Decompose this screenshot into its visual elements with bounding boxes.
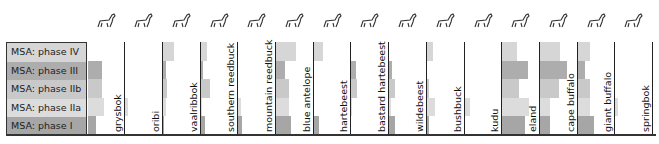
bar [502, 79, 519, 98]
bar [201, 116, 205, 135]
bar [276, 42, 296, 61]
bar [540, 98, 550, 117]
bar [578, 79, 590, 98]
bar [163, 79, 167, 98]
bar [201, 98, 202, 117]
bar [427, 42, 433, 61]
bar [276, 98, 289, 117]
category-label: blue antelope [301, 67, 312, 132]
bar [351, 98, 352, 117]
category-label: kudu [489, 109, 500, 132]
category-label: bastard hartebeest [376, 41, 387, 132]
hartebeest-icon [321, 9, 343, 31]
bar [125, 98, 128, 117]
springbok-icon [622, 9, 644, 31]
axis-line [652, 42, 653, 135]
giant-buffalo-icon [585, 9, 607, 31]
axis-line [124, 42, 125, 135]
bar [578, 116, 594, 135]
bar [88, 98, 104, 117]
category-label: eland [527, 106, 538, 132]
bar [389, 61, 392, 80]
category-label: hartebeest [338, 80, 349, 132]
bar [276, 116, 291, 135]
phase-legend: MSA: phase IV MSA: phase III MSA: phase … [6, 42, 87, 135]
bar [540, 116, 550, 135]
bar [238, 98, 241, 117]
bar [389, 79, 395, 98]
category-label: mountain reedbuck [263, 39, 274, 132]
bar [276, 79, 289, 98]
bar [465, 98, 470, 117]
bar [88, 116, 96, 135]
bushbuck-icon [434, 9, 456, 31]
bar [163, 116, 164, 135]
bar [502, 98, 529, 117]
bar [540, 42, 560, 61]
grysbok-icon [95, 9, 117, 31]
bar [502, 42, 517, 61]
bar [502, 116, 525, 135]
bar [238, 116, 242, 135]
bar [163, 42, 174, 61]
baseline [6, 134, 656, 136]
bar [427, 116, 429, 135]
bar [389, 116, 395, 135]
wildebeest-icon [396, 9, 418, 31]
bar [314, 42, 323, 61]
mountain-reedbuck-icon [245, 9, 267, 31]
category-label: bushbuck [452, 86, 463, 132]
cape-buffalo-icon [547, 9, 569, 31]
bar [163, 98, 166, 117]
vaalribbok-icon [170, 9, 192, 31]
category-label: grysbok [112, 94, 123, 132]
category-label: southern reedbuck [225, 43, 236, 132]
phase-row-iia: MSA: phase IIa [7, 99, 86, 118]
oribi-icon [132, 9, 154, 31]
bar [351, 79, 357, 98]
phase-row-iv: MSA: phase IV [7, 43, 86, 62]
bar [389, 98, 391, 117]
bar [163, 61, 166, 80]
bar [502, 61, 528, 80]
category-label: springbok [640, 85, 651, 132]
phase-row-iib: MSA: phase IIb [7, 80, 86, 99]
category-label: wildebeest [414, 81, 425, 132]
bar [615, 98, 618, 117]
bar [201, 61, 203, 80]
axis-line [614, 42, 615, 135]
bar [578, 61, 585, 80]
bastard-hartebeest-icon [358, 9, 380, 31]
blue-antelope-icon [283, 9, 305, 31]
category-label: vaalribbok [188, 82, 199, 132]
bar [427, 98, 435, 117]
bar [201, 42, 207, 61]
bar [351, 61, 356, 80]
southern-reedbuck-icon [208, 9, 230, 31]
bar [314, 116, 319, 135]
bar [88, 79, 102, 98]
eland-icon [509, 9, 531, 31]
bar [578, 42, 590, 61]
phase-row-iii: MSA: phase III [7, 62, 86, 81]
bar [276, 61, 285, 80]
category-label: cape buffalo [565, 73, 576, 132]
bar [578, 98, 590, 117]
category-label: giant buffalo [602, 72, 613, 132]
category-label: oribi [150, 111, 161, 132]
bar [427, 79, 429, 98]
axis-line [464, 42, 465, 135]
kudu-icon [472, 9, 494, 31]
bar [88, 61, 102, 80]
bar [540, 79, 559, 98]
bar [201, 79, 210, 98]
bar [540, 61, 567, 80]
faunal-abundance-chart: MSA: phase IV MSA: phase III MSA: phase … [0, 0, 659, 144]
